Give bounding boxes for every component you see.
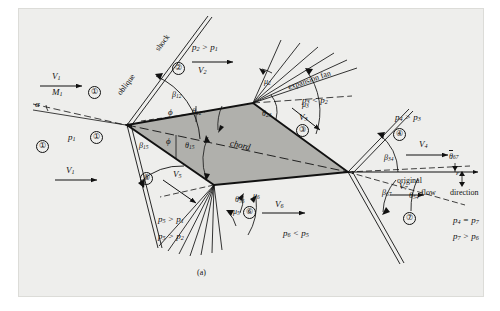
- velocity-label-v2: V2: [198, 66, 207, 75]
- phi-upper-label: ϕ: [168, 108, 173, 117]
- original-flow-word3: direction: [450, 189, 478, 197]
- mu6-label: μ6: [253, 192, 260, 201]
- velocity-label-v3: V3: [299, 113, 308, 122]
- diagram-canvas: [0, 0, 500, 311]
- pressure-relation-p2-p1: p2 > p1: [192, 43, 218, 52]
- theta54-label: θ54: [409, 192, 418, 201]
- velocity-label-v4: V4: [419, 140, 428, 149]
- beta15-label: β15: [139, 142, 148, 151]
- mu5-label: μ5: [233, 208, 240, 217]
- velocity-label-v6: V6: [275, 200, 284, 209]
- alpha-angle-mark: [46, 105, 48, 111]
- pressure-relation-p4-p7: p4 = p7: [453, 216, 479, 225]
- original-flow-word1: original: [397, 177, 422, 185]
- velocity-label-v5: V5: [173, 170, 182, 179]
- region-marker-7: ⑦: [403, 212, 416, 225]
- epsilon-label: ε: [456, 170, 459, 177]
- pressure-relation-p6-p5: p6 < p5: [283, 229, 309, 238]
- beta12-label: β12: [172, 91, 181, 100]
- trailing-shock-lower: [348, 171, 404, 264]
- beta34-label: β34: [384, 154, 393, 163]
- theta56-label: θ56: [235, 196, 244, 205]
- mach-label-m1: M1: [52, 88, 63, 97]
- region-marker-2: ②: [172, 62, 185, 75]
- pressure-relation-p7-p6: p7 > p6: [453, 232, 479, 241]
- region-marker-4: ④: [393, 128, 406, 141]
- pressure-relation-p3-p2: p3 < p2: [302, 96, 328, 105]
- alpha-label: α: [35, 100, 40, 109]
- theta12-label: θ12: [192, 108, 201, 117]
- theta23-label: θ23: [262, 110, 271, 119]
- figure-root: V1 M1 α p1 V1 ① ① ① ② ③ ④ ⑤ ⑥ ⑦ oblique …: [0, 0, 500, 311]
- region-marker-5: ⑤: [140, 172, 153, 185]
- region-marker-1a: ①: [88, 86, 101, 99]
- phi-lower-label: ϕ: [166, 137, 171, 146]
- pressure-relation-p4-p3: p4 > p3: [395, 113, 421, 122]
- mu2-label: μ2: [264, 78, 271, 87]
- pressure-relation-p5-p2: p5 > p2: [158, 232, 184, 241]
- figure-caption: (a): [197, 269, 206, 277]
- pressure-label-p1: p1: [68, 133, 76, 142]
- region-marker-6: ⑥: [243, 206, 256, 219]
- theta67-bar-label: θ67: [449, 152, 458, 161]
- pressure-relation-p5-p1: p5 > p1: [158, 215, 184, 224]
- velocity-label-v1-bottom: V1: [66, 166, 75, 175]
- original-flow-word2: flow: [421, 189, 436, 197]
- freestream-reference-line: [33, 104, 132, 126]
- theta15-label: θ15: [185, 142, 194, 151]
- velocity-label-v1-top: V1: [52, 72, 61, 81]
- region-marker-1c: ①: [90, 131, 103, 144]
- region-marker-1b: ①: [36, 140, 49, 153]
- region-marker-3: ③: [296, 124, 309, 137]
- beta67-label: β67: [382, 189, 391, 198]
